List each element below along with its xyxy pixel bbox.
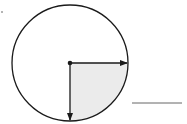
center-dot	[68, 61, 73, 66]
fraction-circle-diagram	[0, 0, 187, 124]
shaded-quarter	[70, 63, 128, 121]
stray-dot	[1, 11, 3, 13]
